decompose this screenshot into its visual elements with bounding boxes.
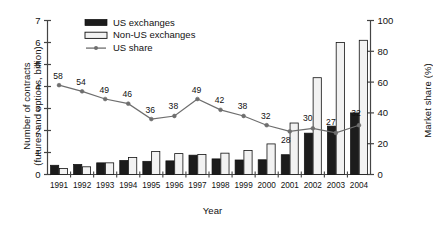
data-label-us-share: 46 (122, 89, 132, 99)
x-tick-label: 1993 (96, 181, 115, 190)
x-tick-label: 1999 (234, 181, 253, 190)
line-marker-us-share (357, 123, 361, 127)
x-tick-label: 2001 (281, 181, 300, 190)
bar-us-exchanges (212, 159, 220, 175)
bar-us-exchanges (166, 161, 174, 175)
x-tick-label: 1997 (188, 181, 207, 190)
line-marker-us-share (57, 83, 61, 87)
line-marker-us-share (80, 89, 84, 93)
line-marker-us-share (265, 123, 269, 127)
data-label-us-share: 32 (261, 111, 271, 121)
data-label-us-share: 58 (53, 71, 63, 81)
data-label-us-share: 49 (99, 85, 109, 95)
bar-us-exchanges (51, 165, 59, 174)
bar-non-us-exchanges (82, 167, 90, 175)
y-tick-label-right: 60 (378, 77, 389, 88)
x-tick-label: 1994 (119, 181, 138, 190)
bar-us-exchanges (189, 155, 197, 174)
bar-us-exchanges (120, 160, 128, 174)
x-tick-label: 1996 (165, 181, 184, 190)
legend-label-us-share: US share (113, 42, 153, 53)
data-label-us-share: 38 (238, 101, 248, 111)
line-marker-us-share (242, 114, 246, 118)
y-tick-label-right: 100 (378, 15, 394, 26)
x-tick-label: 1998 (211, 181, 230, 190)
legend-swatch-us-exchanges (85, 19, 107, 25)
line-marker-us-share (288, 129, 292, 133)
data-label-us-share: 36 (146, 105, 156, 115)
y-tick-label-right: 80 (378, 46, 389, 57)
y-axis-left-title: Number of contracts (futures and options… (21, 26, 43, 186)
line-marker-us-share (149, 117, 153, 121)
bar-non-us-exchanges (152, 151, 160, 174)
bar-us-exchanges (143, 161, 151, 174)
bar-non-us-exchanges (336, 43, 344, 175)
bar-non-us-exchanges (105, 163, 113, 175)
bar-us-exchanges (304, 133, 312, 174)
x-tick-label: 1992 (73, 181, 92, 190)
data-label-us-share: 32 (351, 108, 361, 118)
bar-us-exchanges (235, 160, 243, 175)
x-axis-title: Year (0, 205, 425, 216)
line-marker-us-share (334, 131, 338, 135)
bar-us-exchanges (74, 164, 82, 174)
legend-label-non-us-exchanges: Non-US exchanges (113, 29, 196, 40)
y-tick-label-right: 20 (378, 138, 389, 149)
bar-non-us-exchanges (244, 151, 252, 175)
line-marker-us-share (311, 126, 315, 130)
data-label-us-share: 54 (76, 77, 86, 87)
y-tick-label-left: 7 (35, 15, 40, 26)
bar-us-exchanges (281, 155, 289, 175)
data-label-us-share: 38 (169, 101, 179, 111)
bar-non-us-exchanges (267, 144, 275, 175)
x-tick-label: 1991 (50, 181, 69, 190)
line-marker-us-share (103, 97, 107, 101)
bar-non-us-exchanges (313, 78, 321, 175)
data-label-us-share: 27 (326, 117, 336, 127)
y-axis-left-title-line2: (futures and options, billion) (32, 46, 43, 166)
x-tick-label: 2000 (258, 181, 277, 190)
bar-us-exchanges (258, 160, 266, 175)
x-tick-label: 2003 (327, 181, 346, 190)
line-marker-us-share (172, 114, 176, 118)
y-axis-left-title-line1: Number of contracts (21, 62, 32, 149)
legend-label-us-exchanges: US exchanges (113, 17, 175, 28)
data-label-us-share: 28 (281, 135, 291, 145)
data-label-us-share: 42 (215, 95, 225, 105)
y-tick-label-right: 40 (378, 107, 389, 118)
bar-non-us-exchanges (129, 158, 137, 175)
x-tick-label: 1995 (142, 181, 161, 190)
y-tick-label-right: 0 (378, 169, 383, 180)
x-tick-label: 2002 (304, 181, 323, 190)
legend-swatch-non-us-exchanges (85, 32, 107, 38)
data-label-us-share: 30 (303, 113, 313, 123)
bar-non-us-exchanges (198, 154, 206, 174)
bar-us-exchanges (350, 113, 358, 175)
bar-non-us-exchanges (221, 153, 229, 174)
bar-us-exchanges (97, 163, 105, 175)
x-tick-label: 2004 (350, 181, 369, 190)
bar-non-us-exchanges (175, 154, 183, 175)
line-marker-us-share (126, 102, 130, 106)
legend-marker-us-share (94, 46, 98, 50)
line-marker-us-share (196, 97, 200, 101)
bar-non-us-exchanges (59, 169, 67, 175)
y-axis-right-title: Market share (%) (422, 26, 433, 176)
data-label-us-share: 49 (192, 85, 202, 95)
line-marker-us-share (219, 108, 223, 112)
